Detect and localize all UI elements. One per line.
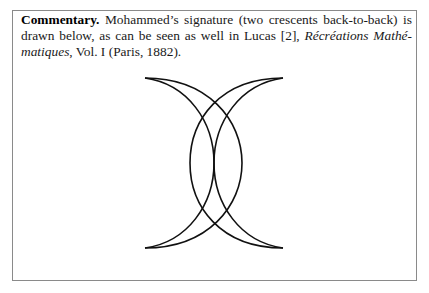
left-crescent-inner-arc	[145, 78, 214, 248]
crescents-figure	[0, 0, 429, 293]
right-crescent-inner-arc	[214, 78, 283, 248]
